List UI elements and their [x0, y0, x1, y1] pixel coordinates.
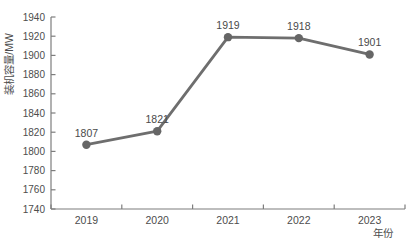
x-tick-label: 2022 — [287, 214, 311, 226]
y-tick-label: 1740 — [23, 204, 46, 215]
y-tick-label: 1820 — [23, 127, 46, 138]
y-tick-label: 1840 — [23, 108, 46, 119]
x-axis-title: 年份 — [373, 227, 394, 239]
series-line — [86, 37, 369, 145]
y-tick-label: 1780 — [23, 165, 46, 176]
data-point — [82, 140, 90, 148]
data-point-label: 1821 — [146, 113, 170, 125]
chart-canvas: 1740176017801800182018401860188019001920… — [0, 0, 415, 249]
data-point — [153, 127, 161, 135]
data-point — [295, 34, 303, 42]
y-axis: 1740176017801800182018401860188019001920… — [23, 12, 56, 215]
data-point — [224, 33, 232, 41]
x-tick-label: 2019 — [75, 214, 99, 226]
line-chart: 1740176017801800182018401860188019001920… — [0, 0, 415, 249]
x-tick-label: 2021 — [216, 214, 240, 226]
y-tick-label: 1880 — [23, 69, 46, 80]
y-tick-label: 1800 — [23, 146, 46, 157]
data-point — [365, 50, 373, 58]
data-point-label: 1919 — [216, 19, 240, 31]
y-tick-label: 1920 — [23, 31, 46, 42]
data-point-label: 1807 — [75, 127, 99, 139]
data-point-label: 1918 — [287, 20, 311, 32]
y-tick-label: 1940 — [23, 12, 46, 23]
y-tick-label: 1760 — [23, 184, 46, 195]
y-tick-label: 1900 — [23, 50, 46, 61]
x-tick-label: 2020 — [146, 214, 170, 226]
data-series — [82, 33, 374, 149]
x-tick-label: 2023 — [358, 214, 382, 226]
y-tick-label: 1860 — [23, 88, 46, 99]
y-axis-title: 装机容量/MW — [3, 33, 15, 95]
data-point-label: 1901 — [358, 36, 382, 48]
x-axis: 20192020202120222023 — [51, 205, 405, 227]
